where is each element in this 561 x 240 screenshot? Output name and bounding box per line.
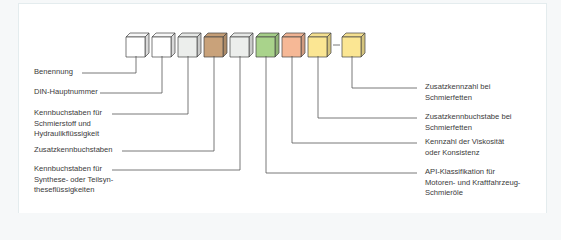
cube-3 [178,33,201,57]
cube-7 [282,33,305,57]
cube-8 [308,33,331,57]
label-zusatzkennbuchstaben: Zusatzkennbuchstaben [34,145,113,156]
label-kennbuchstaben-schmierstoff: Kennbuchstaben für Schmierstoff und Hydr… [34,108,102,140]
label-kennzahl-viskositaet: Kennzahl der Viskosität oder Konsistenz [425,137,504,158]
leader-lines [82,45,417,173]
cube-9 [342,33,365,57]
label-zusatzkennbuchstabe-schmierfette: Zusatzkennbuchstabe bei Schmierfetten [425,112,512,133]
label-benennung: Benennung [34,67,73,78]
label-din-hauptnummer: DIN-Hauptnummer [34,87,98,98]
cube-2 [152,33,175,57]
label-kennbuchstaben-synthese: Kennbuchstaben für Synthese- oder Teilsy… [34,164,113,196]
cube-1 [126,33,149,57]
cube-4 [204,33,227,57]
cube-5 [230,33,253,57]
label-zusatzkennzahl-schmierfette: Zusatzkennzahl bei Schmierfetten [425,82,490,103]
label-api-klassifikation: API-Klassifikation für Motoren- und Kraf… [425,167,520,199]
cube-6 [256,33,279,57]
